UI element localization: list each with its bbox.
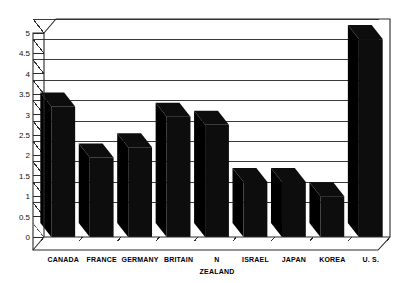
bar-front-face — [51, 106, 75, 237]
bar-front-face — [320, 196, 344, 237]
bar — [309, 182, 344, 237]
bar-chart-figure: 00.511.522.533.544.55 CANADAFRANCEGERMAN… — [0, 0, 405, 283]
bar-front-face — [359, 39, 383, 237]
x-axis-category-label: KOREA — [319, 256, 345, 263]
x-axis-category-label: U. S. — [362, 256, 379, 263]
bar-front-face — [205, 125, 229, 237]
bar-side-face — [117, 133, 128, 237]
y-axis-tick-label: 3.5 — [19, 90, 31, 99]
bar — [40, 92, 75, 237]
y-axis-tick-label: 1 — [26, 192, 31, 201]
x-axis-category-label: GERMANY — [122, 256, 159, 263]
bar-side-face — [40, 92, 51, 237]
x-axis-category-label: N — [214, 256, 219, 263]
y-axis-tick-label: 4 — [26, 70, 31, 79]
bar-side-face — [194, 111, 205, 237]
y-axis-tick-label: 2 — [26, 151, 31, 160]
y-axis-tick-label: 4.5 — [19, 49, 31, 58]
bar-side-face — [156, 103, 167, 237]
y-axis-tick-label: 3 — [26, 111, 31, 120]
y-axis-tick-label: 5 — [26, 29, 31, 38]
y-axis-tick-label: 1.5 — [19, 172, 31, 181]
bar — [156, 103, 191, 237]
bar-front-face — [244, 182, 268, 237]
y-axis-tick-label: 2.5 — [19, 131, 31, 140]
bar — [117, 133, 152, 237]
bar-front-face — [167, 117, 191, 237]
bar — [194, 111, 229, 237]
x-axis-category-label: FRANCE — [86, 256, 116, 263]
x-axis-category-label: CANADA — [47, 256, 79, 263]
bar — [233, 168, 268, 237]
x-axis-category-label: ZEALAND — [200, 268, 235, 275]
bar-chart-svg: 00.511.522.533.544.55 CANADAFRANCEGERMAN… — [0, 0, 405, 283]
bar — [79, 143, 114, 237]
bar-front-face — [128, 147, 152, 237]
bar-side-face — [348, 25, 359, 237]
bar-side-face — [79, 143, 90, 237]
y-axis-tick-label: 0 — [26, 233, 31, 242]
x-axis-category-label: ISRAEL — [242, 256, 269, 263]
bar-front-face — [282, 182, 306, 237]
x-axis-category-label: JAPAN — [282, 256, 306, 263]
bar-front-face — [90, 157, 114, 237]
x-axis-category-label: BRITAIN — [164, 256, 193, 263]
y-axis-tick-label: 0.5 — [19, 213, 31, 222]
bar — [348, 25, 383, 237]
bar — [271, 168, 306, 237]
